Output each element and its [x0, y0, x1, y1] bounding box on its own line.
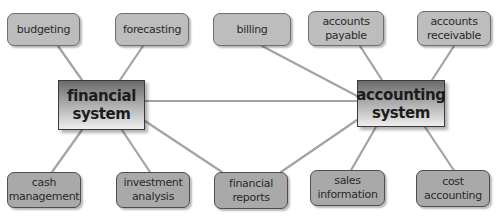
node-cash-management: cash management [7, 172, 81, 208]
link-cash-financial [52, 130, 82, 172]
link-payable-accounting [360, 46, 382, 80]
node-accounts-receivable: accounts receivable [417, 11, 491, 46]
hub-accounting-system: accounting system [357, 80, 445, 127]
hub-label: financial system [67, 87, 136, 123]
link-reports-financial [145, 121, 222, 172]
link-reports-accounting [281, 120, 357, 172]
node-label: billing [236, 23, 267, 37]
link-receivable-accounting [432, 46, 454, 80]
link-forecasting-financial [120, 46, 143, 80]
node-label: financial reports [229, 177, 273, 205]
node-budgeting: budgeting [7, 13, 80, 46]
node-accounts-payable: accounts payable [308, 11, 384, 46]
node-label: cash management [9, 176, 80, 204]
hub-financial-system: financial system [58, 80, 145, 130]
node-investment-analysis: investment analysis [116, 172, 190, 208]
node-label: accounts payable [322, 15, 369, 43]
node-forecasting: forecasting [115, 13, 189, 46]
node-label: cost accounting [424, 175, 482, 203]
node-label: accounts receivable [427, 15, 481, 43]
link-budgeting-financial [58, 46, 82, 80]
node-cost-accounting: cost accounting [416, 170, 490, 207]
node-label: forecasting [123, 23, 181, 37]
node-billing: billing [213, 13, 291, 46]
link-cost-accounting [425, 127, 455, 172]
link-investment-financial [122, 130, 150, 172]
node-label: sales information [317, 174, 377, 202]
hub-label: accounting system [356, 86, 445, 122]
link-sales-accounting [350, 127, 376, 172]
link-billing-accounting [262, 46, 357, 96]
node-sales-information: sales information [310, 170, 385, 206]
node-financial-reports: financial reports [214, 172, 288, 209]
node-label: budgeting [17, 23, 70, 37]
node-label: investment analysis [123, 176, 182, 204]
